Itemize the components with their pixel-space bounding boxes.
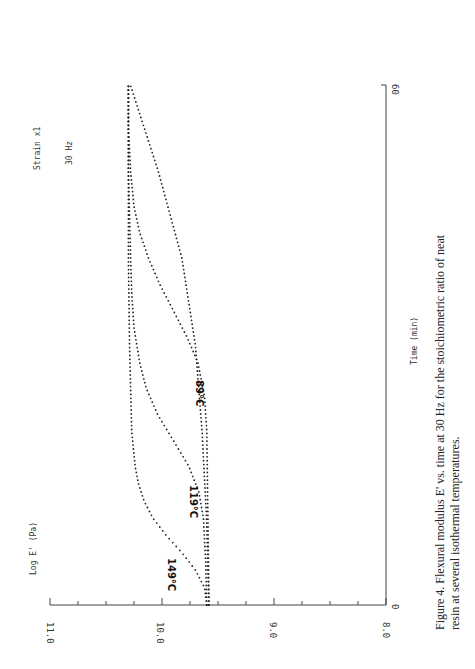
y-tick-11: 11.0: [45, 622, 55, 644]
y-tick-9: 9.0: [268, 622, 278, 638]
series-baseline: [130, 85, 210, 605]
label-149c: 149°C: [166, 558, 177, 591]
label-119c: 119°C: [188, 485, 199, 518]
x-axis-title: Time (min): [410, 317, 419, 365]
y-tick-8: 8.0: [381, 622, 391, 638]
x-tick-60: 60: [390, 84, 400, 95]
figure-caption-line-1: Figure 4. Flexural modulus E' vs. time a…: [433, 234, 447, 630]
label-89c: 89°C: [194, 380, 205, 406]
chart-canvas: 11.0 10.0 9.0 8.0 0 60 Log E' (Pa) Time …: [0, 0, 475, 669]
modulus-ticks: [50, 598, 386, 605]
frequency-annotation: 30 Hz: [65, 141, 74, 165]
y-axis-title: Log E' (Pa): [29, 522, 38, 575]
series-89c: [127, 85, 209, 605]
series-149c: [127, 85, 207, 605]
x-tick-0: 0: [390, 604, 400, 609]
y-tick-10: 10.0: [155, 622, 165, 644]
figure-caption-line-2: resin at several isothermal temperatures…: [448, 436, 462, 630]
curves: [127, 85, 209, 605]
series-119c: [127, 85, 207, 605]
strain-annotation: Strain x1: [33, 126, 42, 170]
